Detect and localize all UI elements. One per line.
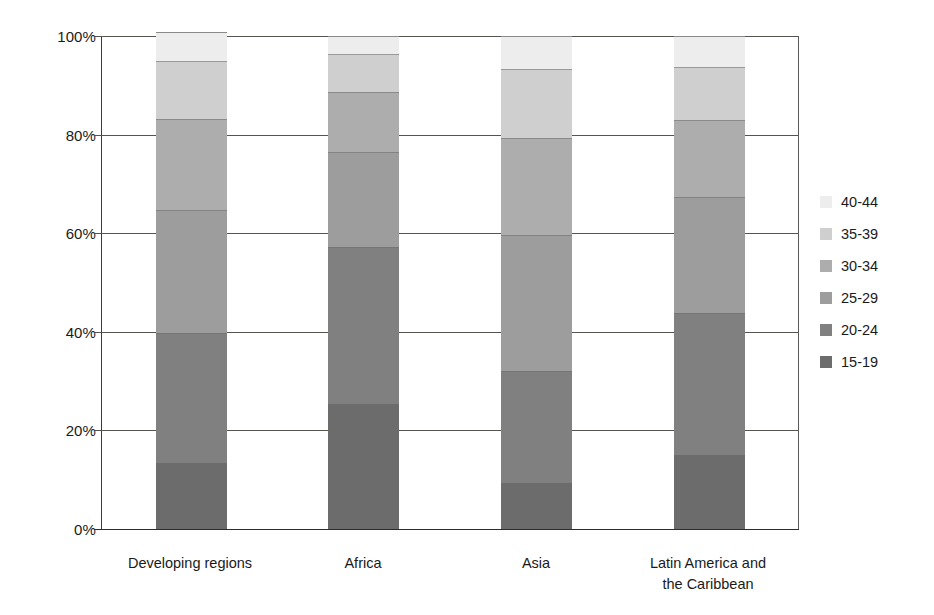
legend-swatch-icon: [820, 260, 832, 272]
bar-segment-25-29[interactable]: [674, 197, 745, 313]
bar-segment-20-24[interactable]: [156, 333, 227, 463]
bar-segment-30-34[interactable]: [328, 92, 399, 152]
bar-africa[interactable]: [328, 36, 399, 529]
legend-label: 25-29: [841, 291, 878, 306]
legend: 40-4435-3930-3425-2920-2415-19: [820, 186, 930, 378]
bar-segment-30-34[interactable]: [674, 120, 745, 197]
legend-label: 40-44: [841, 195, 878, 210]
y-tick-label-0: 0%: [44, 522, 96, 537]
legend-label: 15-19: [841, 355, 878, 370]
x-tick-label-line: Africa: [268, 553, 458, 574]
legend-item-40-44[interactable]: 40-44: [820, 186, 930, 218]
legend-swatch-icon: [820, 324, 832, 336]
bar-segment-40-44[interactable]: [674, 36, 745, 67]
bar-segment-35-39[interactable]: [674, 67, 745, 120]
bar-asia[interactable]: [501, 36, 572, 529]
x-tick-label-africa: Africa: [268, 553, 458, 574]
legend-item-30-34[interactable]: 30-34: [820, 250, 930, 282]
y-axis: 100% 80% 60% 40% 20% 0%: [40, 0, 96, 615]
bar-segment-15-19[interactable]: [501, 483, 572, 529]
legend-item-20-24[interactable]: 20-24: [820, 314, 930, 346]
gridline-0: [94, 529, 799, 530]
legend-swatch-icon: [820, 228, 832, 240]
y-tick-label-40: 40%: [44, 325, 96, 340]
bar-segment-35-39[interactable]: [328, 54, 399, 92]
x-tick-label-developing-regions: Developing regions: [95, 553, 285, 574]
bar-segment-35-39[interactable]: [501, 69, 572, 138]
bar-segment-25-29[interactable]: [501, 235, 572, 371]
x-tick-label-line: Developing regions: [95, 553, 285, 574]
bar-segment-40-44[interactable]: [156, 32, 227, 61]
x-tick-label-asia: Asia: [441, 553, 631, 574]
bar-segment-30-34[interactable]: [156, 119, 227, 210]
bar-segment-20-24[interactable]: [501, 371, 572, 483]
x-tick-label-line: the Caribbean: [613, 574, 803, 595]
legend-label: 30-34: [841, 259, 878, 274]
legend-item-15-19[interactable]: 15-19: [820, 346, 930, 378]
bar-segment-15-19[interactable]: [328, 404, 399, 529]
y-tick-label-80: 80%: [44, 128, 96, 143]
legend-swatch-icon: [820, 196, 832, 208]
stacked-bar-chart: 100% 80% 60% 40% 20% 0% Developing regio…: [0, 0, 934, 615]
x-tick-label-line: Asia: [441, 553, 631, 574]
bar-segment-40-44[interactable]: [501, 36, 572, 69]
legend-swatch-icon: [820, 356, 832, 368]
legend-label: 35-39: [841, 227, 878, 242]
bar-segment-15-19[interactable]: [674, 455, 745, 529]
x-tick-label-latin-america: Latin America and the Caribbean: [613, 553, 803, 595]
bar-segment-40-44[interactable]: [328, 36, 399, 54]
bar-developing-regions[interactable]: [156, 32, 227, 529]
legend-item-35-39[interactable]: 35-39: [820, 218, 930, 250]
bar-segment-20-24[interactable]: [674, 313, 745, 455]
bar-segment-30-34[interactable]: [501, 138, 572, 235]
x-tick-label-line: Latin America and: [613, 553, 803, 574]
y-tick-label-60: 60%: [44, 226, 96, 241]
legend-label: 20-24: [841, 323, 878, 338]
bar-segment-20-24[interactable]: [328, 247, 399, 404]
bar-segment-25-29[interactable]: [156, 210, 227, 333]
y-tick-label-20: 20%: [44, 423, 96, 438]
bar-latin-america[interactable]: [674, 36, 745, 529]
y-tick-label-100: 100%: [44, 29, 96, 44]
plot-area: [101, 36, 799, 529]
bar-segment-25-29[interactable]: [328, 152, 399, 247]
bar-segment-15-19[interactable]: [156, 463, 227, 529]
legend-item-25-29[interactable]: 25-29: [820, 282, 930, 314]
legend-swatch-icon: [820, 292, 832, 304]
bar-segment-35-39[interactable]: [156, 61, 227, 119]
